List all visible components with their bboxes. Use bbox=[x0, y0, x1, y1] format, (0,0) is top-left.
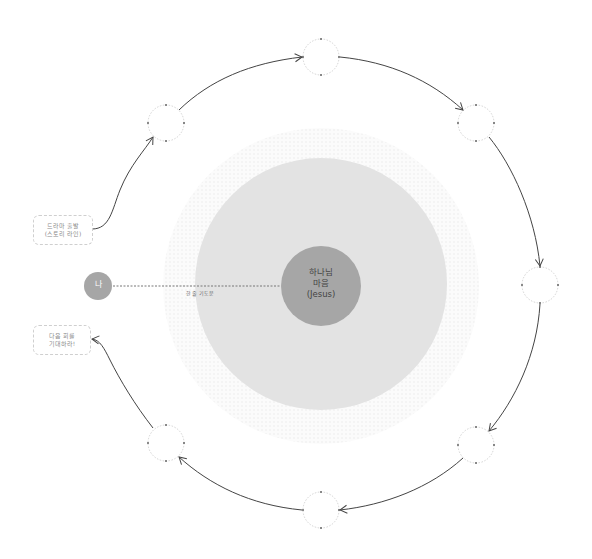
orbit-node-top-right[interactable] bbox=[458, 105, 494, 141]
arrow-bottomleft-to-end bbox=[92, 339, 153, 428]
start-box-line1: 드라마 출발 bbox=[47, 222, 79, 230]
arrow-bottomright-to-bottom bbox=[340, 458, 463, 510]
arrow-topright-to-right bbox=[489, 137, 540, 266]
orbit-node-top[interactable] bbox=[303, 39, 339, 75]
orbit-node-bottom-right[interactable] bbox=[458, 427, 494, 463]
center-line2: 마음 bbox=[281, 278, 361, 289]
orbit-node-top-left[interactable] bbox=[148, 105, 184, 141]
end-box-line1: 다음 회를 bbox=[49, 332, 75, 340]
me-label: 나 bbox=[84, 280, 112, 290]
start-box-line2: (스토리 라인) bbox=[45, 230, 82, 238]
center-line3: (Jesus) bbox=[281, 289, 361, 300]
end-box[interactable]: 다음 회를 기대하라! bbox=[33, 325, 91, 355]
orbit-node-bottom[interactable] bbox=[303, 492, 339, 528]
arrow-right-to-bottomright bbox=[489, 304, 540, 431]
orbit-node-bottom-left[interactable] bbox=[148, 425, 184, 461]
center-line1: 하나님 bbox=[281, 267, 361, 278]
connector-label: 한 줄 기도문 bbox=[170, 290, 230, 297]
arrow-bottom-to-bottomleft bbox=[179, 457, 302, 510]
orbit-node-right[interactable] bbox=[522, 267, 558, 303]
arrow-top-to-topright bbox=[340, 57, 463, 110]
center-label: 하나님 마음 (Jesus) bbox=[281, 267, 361, 300]
end-box-line2: 기대하라! bbox=[49, 340, 75, 348]
arrow-topleft-to-top bbox=[179, 57, 302, 110]
arrow-start-to-topleft bbox=[92, 137, 153, 229]
start-box[interactable]: 드라마 출발 (스토리 라인) bbox=[33, 215, 93, 245]
